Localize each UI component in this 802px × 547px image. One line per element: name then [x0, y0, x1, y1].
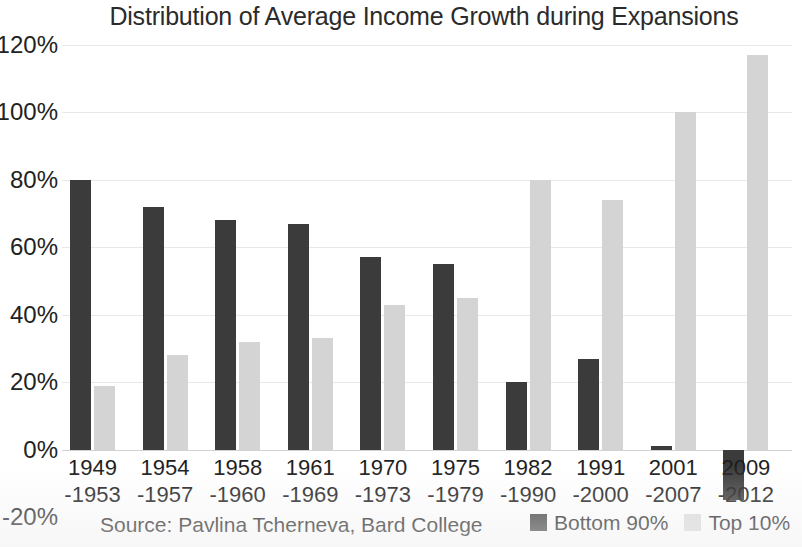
legend-swatch-icon	[530, 514, 547, 531]
bar	[167, 355, 188, 449]
y-axis-tick-label: -20%	[2, 505, 58, 529]
bar	[360, 257, 381, 449]
y-axis-labels: 120%100%80%60%40%20%0%-20%	[0, 45, 62, 517]
legend-label: Top 10%	[708, 512, 790, 533]
bar	[675, 112, 696, 449]
zero-axis-line	[62, 450, 792, 451]
bar	[602, 200, 623, 449]
x-axis-category-label: 2009-2012	[696, 454, 796, 508]
y-axis-tick-label: 40%	[10, 303, 58, 327]
bar	[384, 305, 405, 450]
bar	[143, 207, 164, 450]
bar	[288, 224, 309, 450]
bar	[70, 180, 91, 450]
bar	[506, 382, 527, 449]
bar	[651, 446, 672, 449]
y-axis-tick-label: 120%	[0, 33, 58, 57]
source-note: Source: Pavlina Tcherneva, Bard College	[100, 513, 483, 537]
legend-swatch-icon	[684, 514, 701, 531]
bar	[747, 55, 768, 449]
income-growth-chart: Distribution of Average Income Growth du…	[0, 0, 802, 547]
legend-item[interactable]: Top 10%	[684, 512, 790, 533]
category-start-year: 2009	[696, 454, 796, 481]
gridline	[62, 45, 792, 46]
y-axis-tick-label: 80%	[10, 168, 58, 192]
chart-title: Distribution of Average Income Growth du…	[0, 2, 802, 31]
plot-area	[62, 45, 792, 517]
bar	[457, 298, 478, 450]
y-axis-tick-label: 100%	[0, 100, 58, 124]
bar	[239, 342, 260, 450]
legend-label: Bottom 90%	[554, 512, 668, 533]
bar	[433, 264, 454, 449]
y-axis-tick-label: 60%	[10, 235, 58, 259]
bar	[215, 220, 236, 449]
legend-item[interactable]: Bottom 90%	[530, 512, 668, 533]
bar	[578, 359, 599, 450]
bar	[94, 386, 115, 450]
chart-legend: Bottom 90%Top 10%	[530, 512, 802, 533]
bar	[530, 180, 551, 450]
category-end-year: -2012	[696, 481, 796, 508]
y-axis-tick-label: 20%	[10, 370, 58, 394]
bar	[312, 338, 333, 449]
